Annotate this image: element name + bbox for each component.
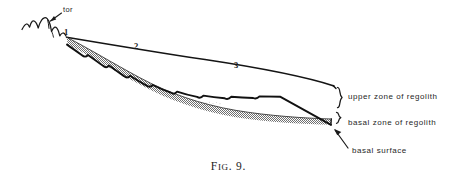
basal-zone-regolith-band <box>67 37 332 125</box>
basal-surface-arrow-icon <box>334 129 348 148</box>
figure-container: tor 1 2 3 upper zone of regolith basal z… <box>0 0 457 185</box>
slope-segment-3-label: 3 <box>234 61 238 70</box>
figure-caption: FIG. 9. <box>0 160 457 172</box>
basal-zone-brace <box>337 112 341 123</box>
tor-arrow-icon <box>50 13 62 21</box>
tor-label: tor <box>63 6 73 14</box>
upper-zone-brace <box>338 88 343 108</box>
basal-zone-of-regolith-label: basal zone of regolith <box>348 119 436 127</box>
slope-segment-2-label: 2 <box>134 42 138 51</box>
slope-segment-1-label: 1 <box>64 28 68 37</box>
caption-smallcaps: IG <box>218 162 229 172</box>
tor-outcrop-icon <box>22 18 66 37</box>
upper-zone-of-regolith-label: upper zone of regolith <box>348 93 438 101</box>
basal-surface-label: basal surface <box>352 147 407 155</box>
caption-prefix: F <box>211 160 218 172</box>
caption-number: . 9. <box>229 160 247 172</box>
